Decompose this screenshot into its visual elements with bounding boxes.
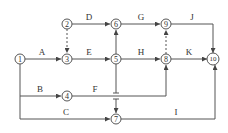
- svg-text:10: 10: [210, 55, 218, 63]
- svg-text:4: 4: [65, 92, 69, 101]
- nodes: 1 2 3 4 5 6 7 8: [15, 19, 219, 124]
- label-C: C: [63, 107, 69, 117]
- node-3: 3: [62, 54, 72, 64]
- label-I: I: [175, 107, 178, 117]
- node-2: 2: [62, 19, 72, 29]
- node-7: 7: [111, 114, 121, 124]
- svg-text:2: 2: [65, 20, 69, 29]
- node-9: 9: [161, 19, 171, 29]
- edge-I: [121, 65, 215, 119]
- label-F: F: [92, 84, 97, 94]
- svg-text:6: 6: [114, 20, 118, 29]
- label-J: J: [190, 12, 194, 22]
- label-K: K: [186, 47, 193, 57]
- network-diagram: A B C D E F G H I J K 1 2 3 4 5: [0, 0, 228, 133]
- svg-text:5: 5: [114, 55, 118, 64]
- edges: [20, 24, 215, 119]
- svg-text:3: 3: [65, 55, 69, 64]
- edge-F: [72, 65, 166, 96]
- svg-text:1: 1: [18, 55, 22, 64]
- label-E: E: [86, 47, 92, 57]
- label-H: H: [138, 47, 145, 57]
- label-A: A: [39, 47, 46, 57]
- node-8: 8: [161, 54, 171, 64]
- label-G: G: [138, 12, 145, 22]
- label-B: B: [37, 84, 43, 94]
- svg-text:9: 9: [164, 20, 168, 29]
- node-6: 6: [111, 19, 121, 29]
- node-5: 5: [111, 54, 121, 64]
- svg-text:7: 7: [114, 115, 118, 124]
- svg-text:8: 8: [164, 55, 168, 64]
- label-D: D: [86, 12, 93, 22]
- node-4: 4: [62, 91, 72, 101]
- node-10: 10: [207, 53, 219, 65]
- node-1: 1: [15, 54, 25, 64]
